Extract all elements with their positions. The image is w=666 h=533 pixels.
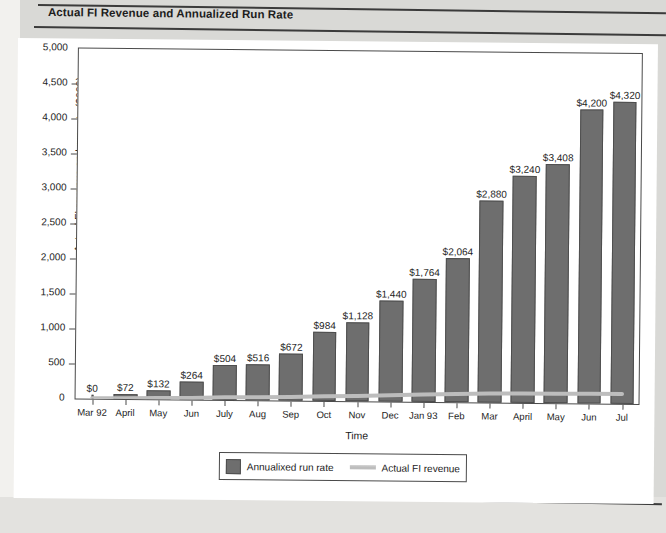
bar-slot: $0: [76, 49, 112, 399]
y-axis-tick-label: 4,500: [42, 76, 67, 87]
x-axis-tick-mark: [291, 402, 292, 407]
x-axis-tick-mark: [390, 403, 391, 408]
y-axis-ticks: 5,0004,5004,0003,5003,0002,5002,0001,500…: [18, 38, 658, 44]
y-axis-tick: 2,500: [16, 223, 76, 224]
bar[interactable]: $672: [279, 353, 303, 400]
y-axis-tick-label: 500: [48, 356, 65, 367]
y-axis-tick: 0: [15, 398, 75, 399]
x-axis-tick-label: Jan 93: [409, 410, 438, 421]
x-axis-tick: April: [108, 402, 141, 420]
bar[interactable]: $504: [213, 365, 237, 400]
y-axis-tick: 4,000: [17, 118, 77, 119]
y-axis-tick-label: 2,500: [41, 216, 66, 227]
x-axis-tick-label: Jun: [184, 408, 199, 419]
x-axis-label: Time: [74, 427, 639, 444]
x-axis-tick-label: Dec: [382, 410, 399, 421]
bar-slot: $984: [307, 51, 343, 401]
bar-value-label: $1,128: [343, 310, 374, 321]
bar[interactable]: $72: [113, 394, 137, 399]
bar[interactable]: $1,764: [411, 278, 436, 402]
legend-entry-revenue: Actual FI revenue: [350, 462, 460, 474]
bar[interactable]: $132: [146, 390, 170, 399]
x-axis-tick: Mar: [473, 405, 506, 423]
x-axis-tick-mark: [523, 404, 524, 409]
bar-slot: $516: [241, 50, 277, 400]
bar[interactable]: $516: [246, 364, 270, 400]
x-axis-tick-label: Mar: [481, 410, 497, 421]
bar[interactable]: $1,440: [378, 301, 403, 402]
bar-slot: $1,764: [407, 52, 443, 402]
y-axis-tick: 1,000: [15, 328, 75, 329]
bar-slot: $1,440: [374, 51, 410, 401]
bar[interactable]: $984: [312, 332, 337, 401]
bar-value-label: $0: [87, 383, 98, 394]
x-axis-tick: Oct: [307, 404, 340, 422]
x-axis-tick-mark: [423, 403, 424, 408]
x-axis-tick-label: Nov: [348, 409, 365, 420]
legend-label-revenue: Actual FI revenue: [382, 462, 460, 474]
y-axis-tick-label: 0: [59, 391, 65, 402]
bar[interactable]: $3,240: [511, 176, 537, 403]
x-axis-tick-label: Feb: [448, 410, 464, 421]
x-axis-tick-mark: [622, 405, 623, 410]
x-axis-tick-mark: [456, 403, 457, 408]
x-axis-ticks: Mar 92AprilMayJunJulyAugSepOctNovDecJan …: [75, 402, 638, 425]
bar-slot: $504: [208, 50, 244, 400]
bar[interactable]: $3,408: [544, 165, 570, 404]
y-axis-tick-label: 5,000: [43, 41, 68, 52]
x-axis-tick: Sep: [274, 403, 307, 421]
x-axis-tick-mark: [490, 404, 491, 409]
x-axis-tick-label: Sep: [282, 409, 299, 420]
y-axis-tick-label: 4,000: [42, 111, 67, 122]
bar[interactable]: $2,880: [478, 201, 504, 403]
y-axis-tick: 500: [15, 363, 75, 364]
y-axis-tick-label: 1,000: [40, 321, 65, 332]
x-axis-tick-label: Jul: [616, 412, 628, 423]
x-axis-tick-label: Aug: [249, 408, 266, 419]
bar[interactable]: $1,128: [345, 322, 370, 401]
x-axis-tick-mark: [158, 400, 159, 405]
y-axis-tick: 1,500: [16, 293, 76, 294]
x-axis-tick-label: April: [116, 407, 135, 418]
bar-slot: $72: [109, 49, 145, 399]
legend-entry-run-rate: Annualixed run rate: [226, 459, 334, 475]
bar[interactable]: $4,200: [577, 109, 604, 403]
x-axis-tick: April: [506, 406, 539, 424]
bar-value-label: $72: [117, 382, 134, 393]
x-axis-tick-mark: [225, 401, 226, 406]
x-axis-tick-mark: [258, 401, 259, 406]
x-axis-tick: Jun: [572, 406, 605, 424]
y-axis-tick-label: 3,500: [42, 146, 67, 157]
bar-value-label: $1,764: [409, 266, 440, 277]
x-axis-tick: Dec: [373, 404, 406, 422]
bar-value-label: $672: [280, 342, 302, 353]
x-axis-tick-mark: [357, 402, 358, 407]
bar-slot: $672: [274, 50, 310, 400]
x-axis-tick-mark: [125, 400, 126, 405]
bar-value-label: $4,200: [576, 97, 607, 108]
x-axis-tick: Jul: [605, 407, 638, 425]
bar-value-label: $2,064: [443, 246, 474, 257]
x-axis-tick: Nov: [340, 404, 373, 422]
bar-slot: $2,064: [440, 52, 476, 402]
x-axis-tick: Aug: [241, 403, 274, 421]
x-axis-tick: Mar 92: [75, 402, 108, 420]
bar[interactable]: $264: [180, 381, 204, 400]
y-axis-tick: 3,500: [17, 153, 77, 154]
bar[interactable]: $2,064: [445, 258, 470, 403]
x-axis-tick: Feb: [440, 405, 473, 423]
bar-value-label: $3,240: [510, 164, 541, 175]
y-axis-tick: 3,000: [17, 188, 77, 189]
bar[interactable]: $0: [91, 395, 93, 399]
bar[interactable]: $4,320: [610, 101, 637, 404]
x-axis-tick-label: April: [513, 411, 532, 422]
x-axis-tick: Jun: [175, 403, 208, 421]
x-axis-tick-label: Oct: [316, 409, 331, 420]
divider-rule-under-title: [34, 26, 666, 36]
legend-bar-swatch-icon: [226, 459, 241, 474]
bar-value-label: $516: [247, 352, 269, 363]
legend-line-swatch-icon: [350, 465, 376, 469]
x-axis-tick-label: July: [216, 408, 233, 419]
y-axis-tick-label: 1,500: [40, 286, 65, 297]
bar-value-label: $984: [314, 320, 336, 331]
